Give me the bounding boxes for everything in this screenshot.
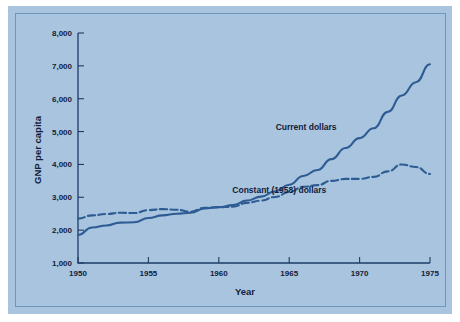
x-tick-label: 1960 bbox=[210, 269, 228, 278]
x-tick-label: 1950 bbox=[69, 269, 87, 278]
series-annotations: Current dollarsConstant (1958) dollars bbox=[232, 122, 336, 195]
axis-lines bbox=[78, 33, 430, 263]
y-tick-label: 3,000 bbox=[52, 193, 73, 202]
series-annotation-label: Current dollars bbox=[276, 122, 337, 132]
y-tick-label: 6,000 bbox=[52, 95, 73, 104]
y-tick-label: 1,000 bbox=[52, 259, 73, 268]
x-tick-label: 1970 bbox=[351, 269, 369, 278]
x-axis-title: Year bbox=[235, 286, 255, 297]
y-tick-label: 4,000 bbox=[52, 160, 73, 169]
x-tick-label: 1955 bbox=[140, 269, 158, 278]
y-axis-tick-labels: 1,0002,0003,0004,0005,0006,0007,0008,000 bbox=[52, 29, 73, 268]
series-annotation-label: Constant (1958) dollars bbox=[232, 185, 326, 195]
gnp-per-capita-line-chart: 1,0002,0003,0004,0005,0006,0007,0008,000… bbox=[0, 0, 460, 322]
x-axis-tick-marks bbox=[78, 257, 430, 263]
y-tick-label: 7,000 bbox=[52, 62, 73, 71]
data-series bbox=[78, 64, 430, 235]
y-axis-tick-marks bbox=[78, 33, 84, 263]
y-tick-label: 2,000 bbox=[52, 226, 73, 235]
x-axis-tick-labels: 195019551960196519701975 bbox=[69, 269, 439, 278]
x-tick-label: 1965 bbox=[280, 269, 298, 278]
y-axis-title: GNP per capita bbox=[32, 115, 43, 184]
chart-figure: 1,0002,0003,0004,0005,0006,0007,0008,000… bbox=[0, 0, 460, 322]
y-tick-label: 5,000 bbox=[52, 128, 73, 137]
y-tick-label: 8,000 bbox=[52, 29, 73, 38]
series-line-solid bbox=[78, 64, 430, 235]
axes bbox=[78, 33, 430, 263]
x-tick-label: 1975 bbox=[421, 269, 439, 278]
